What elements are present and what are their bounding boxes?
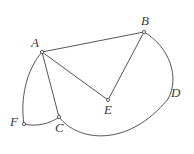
segment-ae [42,52,108,100]
diagram-canvas [0,0,194,154]
geometry-diagram: A B C D E F [0,0,194,154]
vertex-label-e: E [104,103,112,116]
vertex-marker-f [22,122,25,125]
segment-ac [42,52,59,117]
vertex-label-d: D [171,86,180,99]
vertex-marker-a [40,50,43,53]
segment-be [108,32,144,100]
vertex-label-f: F [10,115,18,128]
vertex-label-c: C [55,121,64,134]
vertex-marker-group [22,30,145,125]
arc-group [23,32,173,136]
vertex-label-a: A [31,36,39,49]
vertex-marker-b [142,30,145,33]
arc-fc [24,117,59,125]
segment-group [42,32,144,117]
segment-ab [42,32,144,52]
vertex-marker-c [57,115,60,118]
arc-db [144,32,173,99]
vertex-label-b: B [141,14,149,27]
arc-cd [59,99,168,136]
arc-af [23,52,42,124]
